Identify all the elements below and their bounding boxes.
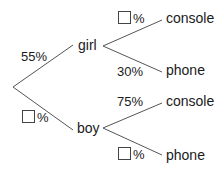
prob-boy-phone: % [118,147,145,162]
blank-answer-box[interactable] [118,147,131,160]
blank-answer-box[interactable] [118,11,131,24]
prob-girl: 55% [21,49,47,64]
node-boy-console: console [166,94,214,109]
prob-boy-console: 75% [117,94,143,109]
node-boy-phone: phone [166,148,205,163]
blank-answer-box[interactable] [22,110,35,123]
prob-girl-console: % [118,11,145,26]
node-girl-phone: phone [166,63,205,78]
prob-girl-phone: 30% [117,64,143,79]
node-girl-console: console [166,11,214,26]
prob-boy: % [22,110,49,125]
node-boy: boy [77,121,100,136]
node-girl: girl [78,38,97,53]
